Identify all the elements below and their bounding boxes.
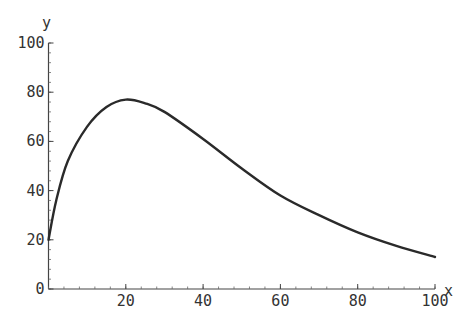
x-tick-label: 20: [117, 292, 135, 310]
y-axis-label: y: [42, 14, 51, 32]
y-tick-label: 60: [26, 132, 44, 150]
x-tick-label: 60: [271, 292, 289, 310]
y-tick-label: 0: [35, 280, 44, 298]
x-tick-label: 80: [349, 292, 367, 310]
x-axis-label: x: [444, 282, 453, 300]
y-tick-label: 100: [17, 34, 44, 52]
x-tick-label: 40: [194, 292, 212, 310]
data-line: [49, 99, 436, 257]
y-tick-label: 40: [26, 182, 44, 200]
y-tick-label: 80: [26, 83, 44, 101]
line-chart: 02040608010020406080100 x y: [0, 0, 474, 327]
axes: 02040608010020406080100: [17, 34, 448, 310]
y-tick-label: 20: [26, 231, 44, 249]
